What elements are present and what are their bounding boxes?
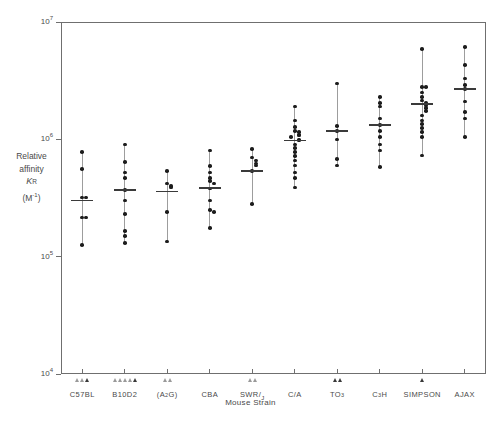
x-tick-mark <box>124 369 125 374</box>
data-point <box>335 82 339 86</box>
data-point <box>335 164 339 168</box>
y-axis-title-line-1: Relative <box>4 150 59 163</box>
data-point <box>293 154 297 158</box>
median-bar <box>199 187 221 189</box>
filled-triangle-icon <box>333 378 337 382</box>
x-tick-mark <box>209 369 210 374</box>
median-bar <box>284 140 306 142</box>
data-point <box>335 157 339 161</box>
open-triangle-icon <box>248 378 252 382</box>
data-point <box>254 164 258 168</box>
data-point <box>293 150 297 154</box>
y-tick-mark <box>56 139 61 140</box>
x-tick-mark <box>464 369 465 374</box>
median-bar <box>114 189 136 191</box>
y-tick-label: 106 <box>41 132 53 143</box>
data-point <box>463 110 467 114</box>
filled-triangle-icon <box>338 378 342 382</box>
data-point <box>165 210 169 214</box>
median-bar <box>241 170 263 172</box>
open-triangle-icon <box>80 378 84 382</box>
data-point <box>293 159 297 163</box>
data-point <box>208 164 212 168</box>
y-axis-title: Relative affinity KR (M-1) <box>4 150 59 204</box>
y-axis-units: (M-1) <box>4 189 59 204</box>
data-point <box>378 95 382 99</box>
open-triangle-icon <box>75 378 79 382</box>
data-point <box>420 135 424 139</box>
data-point <box>424 109 428 113</box>
x-axis-triangle-markers <box>301 378 373 386</box>
data-point <box>165 169 169 173</box>
data-point <box>208 208 212 212</box>
data-point <box>123 229 127 233</box>
open-triangle-icon <box>168 378 172 382</box>
data-point <box>378 117 382 121</box>
x-tick-mark <box>294 369 295 374</box>
data-point <box>293 125 297 129</box>
y-tick-mark <box>56 22 61 23</box>
x-tick-mark <box>82 369 83 374</box>
y-tick-mark <box>56 256 61 257</box>
data-point <box>123 171 127 175</box>
range-line <box>422 49 423 155</box>
data-point <box>463 117 467 121</box>
range-line <box>464 47 465 137</box>
x-tick-mark <box>337 369 338 374</box>
data-point <box>463 45 467 49</box>
x-axis-triangle-markers <box>386 378 458 386</box>
data-point <box>378 165 382 169</box>
data-point <box>293 164 297 168</box>
data-point <box>169 186 173 190</box>
data-point <box>208 171 212 175</box>
data-point <box>463 63 467 67</box>
data-point <box>378 135 382 139</box>
data-point <box>335 138 339 142</box>
x-axis-triangle-markers <box>131 378 203 386</box>
open-triangle-icon <box>163 378 167 382</box>
data-point <box>80 167 84 171</box>
y-axis-symbol: KR <box>4 175 59 189</box>
data-point <box>293 176 297 180</box>
data-point <box>208 179 212 183</box>
data-point <box>123 176 127 180</box>
y-tick-label: 107 <box>41 15 53 26</box>
data-point <box>463 100 467 104</box>
x-tick-mark <box>167 369 168 374</box>
median-bar <box>156 191 178 193</box>
figure-container: 104105106107 Relative affinity KR (M-1) … <box>0 0 501 425</box>
data-point <box>123 241 127 245</box>
data-point <box>289 135 293 139</box>
x-tick-mark <box>252 369 253 374</box>
median-bar <box>369 124 391 126</box>
data-point <box>463 135 467 139</box>
data-point <box>293 129 297 133</box>
data-point <box>420 47 424 51</box>
data-point <box>424 85 428 89</box>
data-point <box>123 160 127 164</box>
data-point <box>123 234 127 238</box>
open-triangle-icon <box>253 378 257 382</box>
x-tick-mark <box>422 369 423 374</box>
x-tick-mark <box>379 369 380 374</box>
data-point <box>420 126 424 130</box>
data-point <box>123 212 127 216</box>
data-point <box>297 134 301 138</box>
data-point <box>293 105 297 109</box>
data-point <box>208 226 212 230</box>
data-point <box>378 129 382 133</box>
data-point <box>293 171 297 175</box>
data-point <box>293 186 297 190</box>
data-point <box>250 202 254 206</box>
open-triangle-icon <box>118 378 122 382</box>
data-point <box>463 77 467 81</box>
median-bar <box>454 88 476 90</box>
y-tick-label: 105 <box>41 250 53 261</box>
data-point <box>250 147 254 151</box>
data-point <box>165 240 169 244</box>
open-triangle-icon <box>123 378 127 382</box>
open-triangle-icon <box>113 378 117 382</box>
data-point <box>80 150 84 154</box>
data-point <box>212 210 216 214</box>
data-point <box>293 119 297 123</box>
